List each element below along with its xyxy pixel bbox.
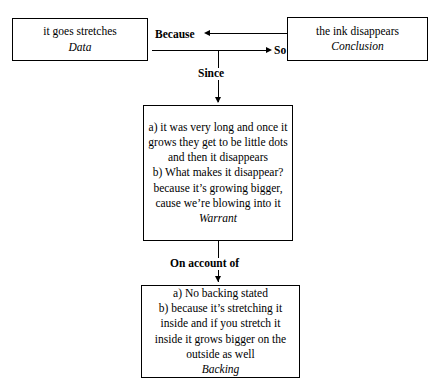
node-data-text: it goes stretches <box>43 24 116 39</box>
node-warrant-text: a) it was very long and once it grows th… <box>148 120 288 211</box>
arrow-because-line <box>210 33 288 34</box>
connector-label-since: Since <box>197 68 225 80</box>
arrow-down-icon-backing <box>215 276 221 282</box>
node-data[interactable]: it goes stretches Data <box>12 18 148 61</box>
node-conclusion-role: Conclusion <box>331 39 383 54</box>
node-warrant-role: Warrant <box>199 211 237 226</box>
node-backing-role: Backing <box>202 362 240 377</box>
node-data-role: Data <box>69 40 92 55</box>
arrow-left-icon <box>204 30 210 36</box>
connector-label-on-account-of: On account of <box>169 258 240 270</box>
diagram-canvas: it goes stretches Data the ink disappear… <box>0 0 436 390</box>
arrow-down-icon <box>215 97 221 103</box>
connector-label-so: So <box>273 45 287 57</box>
node-warrant[interactable]: a) it was very long and once it grows th… <box>143 105 293 241</box>
connector-label-because: Because <box>154 29 196 41</box>
arrow-right-icon <box>266 47 272 53</box>
node-backing[interactable]: a) No backing stated b) because it’s str… <box>141 285 300 378</box>
node-conclusion-text: the ink disappears <box>316 24 399 39</box>
node-backing-text: a) No backing stated b) because it’s str… <box>146 286 295 362</box>
arrow-so-line <box>152 50 270 51</box>
node-conclusion[interactable]: the ink disappears Conclusion <box>287 17 428 61</box>
